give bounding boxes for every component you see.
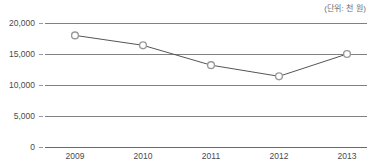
x-axis-tick-label: 2013: [338, 151, 357, 161]
unit-note-label: (단위: 천 원): [324, 2, 366, 13]
data-point-marker: [72, 32, 79, 39]
plot-area: 20,00015,00010,0005,0000 200920102011201…: [45, 23, 367, 147]
x-axis-tick-label: 2009: [66, 151, 85, 161]
series-line: [75, 35, 347, 76]
data-point-marker: [344, 51, 351, 58]
x-axis-tick-label: 2012: [270, 151, 289, 161]
x-axis-tick-label: 2011: [202, 151, 220, 161]
x-axis-tick-label: 2010: [134, 151, 153, 161]
data-point-marker: [208, 62, 215, 69]
y-axis-tick-label: 0: [0, 143, 35, 152]
y-axis-tick-mark: [39, 54, 43, 55]
y-axis-tick-mark: [39, 85, 43, 86]
y-axis-tick-mark: [39, 147, 43, 148]
data-series: [45, 23, 367, 147]
data-point-marker: [140, 42, 147, 49]
gridline: [45, 147, 367, 148]
data-point-marker: [276, 73, 283, 80]
y-axis-tick-mark: [39, 116, 43, 117]
y-axis-tick-label: 15,000: [0, 50, 35, 59]
line-chart: (단위: 천 원) 20,00015,00010,0005,0000 20092…: [0, 0, 372, 166]
y-axis-tick-mark: [39, 23, 43, 24]
y-axis-tick-label: 5,000: [0, 112, 35, 121]
y-axis-tick-label: 20,000: [0, 19, 35, 28]
y-axis-tick-label: 10,000: [0, 81, 35, 90]
